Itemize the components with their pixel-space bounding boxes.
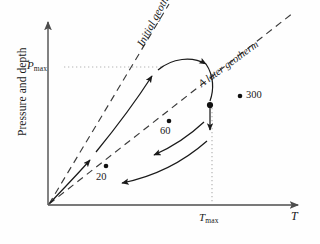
path-retrograde-lower: [122, 141, 207, 183]
tmax-subscript: max: [205, 216, 219, 225]
path-burial-upper: [96, 76, 152, 152]
reference-guides: [64, 67, 212, 204]
dot-junction-tmax: [207, 102, 213, 108]
pmax-tick-label: Pmax: [27, 60, 47, 72]
pt-t-path: [50, 59, 213, 203]
point-60-label: 60: [160, 126, 171, 137]
path-burial-lower: [50, 160, 90, 203]
pmax-subscript: max: [34, 64, 48, 73]
point-300-label: 300: [246, 90, 262, 101]
point-20-label: 20: [96, 172, 107, 183]
dot-20: [104, 164, 109, 169]
dot-300: [238, 94, 243, 99]
sample-dots: [104, 94, 243, 169]
diagram-canvas: [0, 0, 320, 244]
pt-diagram-figure: Pressure and depth T Pmax Tmax Initial g…: [0, 0, 320, 244]
dot-60: [167, 119, 172, 124]
path-peak-heating: [158, 59, 206, 70]
pmax-symbol: P: [27, 59, 34, 71]
axis-lines: [48, 22, 298, 205]
y-axis-label: Pressure and depth: [17, 17, 29, 167]
x-axis-label: T: [291, 210, 298, 222]
geotherm-lines: [49, 4, 293, 204]
tmax-tick-label: Tmax: [199, 212, 219, 224]
